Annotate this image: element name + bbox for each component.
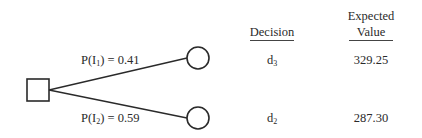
decision-header: Decision bbox=[237, 26, 307, 39]
decision-value-1: d3 bbox=[237, 54, 307, 68]
chance-node-1 bbox=[187, 47, 209, 69]
branch-label-1: P(I1) = 0.41 bbox=[81, 54, 140, 68]
expected-value-1: 329.25 bbox=[336, 54, 406, 67]
chance-node-2 bbox=[187, 107, 209, 129]
expected-value-2: 287.30 bbox=[336, 112, 406, 125]
decision-node-square bbox=[27, 79, 49, 101]
expected-header-line1: Expected bbox=[336, 10, 406, 23]
expected-header-line2: Value bbox=[336, 26, 406, 39]
decision-value-2: d2 bbox=[237, 112, 307, 126]
branch-label-2: P(I2) = 0.59 bbox=[81, 112, 140, 126]
